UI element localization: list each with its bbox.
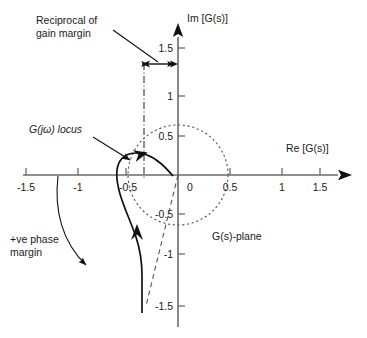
nyquist-locus: [117, 153, 173, 313]
locus-leader-line: [93, 137, 130, 160]
y-tick-label--0.5: -0.5: [155, 208, 173, 220]
real-axis-label: Re [G(s)]: [286, 142, 329, 154]
x-tick-label--1: -1: [73, 181, 82, 193]
gain-margin-leader-line: [113, 30, 158, 62]
phase-margin-label-line1: +ve phase: [10, 233, 59, 245]
imaginary-axis-label: Im [G(s)]: [187, 12, 228, 24]
x-tick-label-0.5: 0.5: [223, 181, 238, 193]
y-tick-label-1.5: 1.5: [158, 42, 173, 54]
phase-margin-label-line2: margin: [10, 246, 42, 258]
x-tick-label--0.5: -0.5: [119, 181, 137, 193]
y-tick-label--1.5: -1.5: [155, 300, 173, 312]
y-tick-label-0.5: 0.5: [158, 130, 173, 142]
nyquist-figure: -1.5 -1 -0.5 0 0.5 1 1.5 1.5 1 0.5 -0.5 …: [0, 0, 367, 338]
locus-label: G(jω) locus: [29, 123, 83, 135]
nyquist-plot-svg: -1.5 -1 -0.5 0 0.5 1 1.5 1.5 1 0.5 -0.5 …: [0, 0, 367, 338]
phase-margin-ray: [146, 175, 178, 306]
y-tick-label--1: -1: [164, 248, 173, 260]
x-tick-label--1.5: -1.5: [17, 181, 35, 193]
x-tick-label-1: 1: [279, 181, 285, 193]
gain-margin-label-line1: Reciprocal of: [36, 14, 97, 26]
real-axis-arrowhead: [338, 170, 352, 180]
gain-margin-label-line2: gain margin: [36, 27, 91, 39]
y-tick-label-1: 1: [167, 90, 173, 102]
imaginary-axis-arrowhead: [173, 23, 183, 37]
plane-label: G(s)-plane: [212, 230, 262, 242]
x-tick-label-0: 0: [187, 181, 193, 193]
x-tick-label-1.5: 1.5: [313, 181, 328, 193]
